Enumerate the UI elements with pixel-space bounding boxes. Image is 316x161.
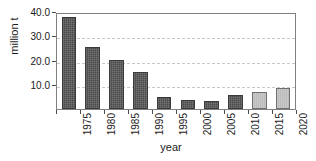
x-axis-title: year (56, 141, 286, 153)
bar (62, 17, 77, 109)
x-tick-label: 1995 (178, 113, 189, 141)
bar (109, 60, 124, 109)
bar (276, 88, 291, 109)
bar-slot (200, 14, 224, 109)
x-tick-label: 1990 (154, 113, 165, 141)
bar-slot (271, 14, 295, 109)
x-tick-label: 2010 (250, 113, 261, 141)
bar-slot (81, 14, 105, 109)
bar (85, 47, 100, 109)
x-tick-label: 2015 (274, 113, 285, 141)
bar-series (57, 14, 295, 109)
plot-area (56, 13, 296, 110)
bar (204, 101, 219, 109)
bar (228, 95, 243, 109)
x-tick-label: 1975 (82, 113, 93, 141)
x-tick-mark (296, 110, 297, 114)
x-tick-label: 2020 (298, 113, 309, 141)
bar-slot (105, 14, 129, 109)
x-axis-tick-labels: 1975198019851990199520002005201020152020 (56, 113, 296, 141)
y-tick-label: 40.0 (31, 6, 50, 19)
x-tick-label: 1980 (106, 113, 117, 141)
x-tick-label: 2005 (226, 113, 237, 141)
x-tick-label: 1985 (130, 113, 141, 141)
bar-slot (128, 14, 152, 109)
bar (181, 100, 196, 109)
bar-slot (152, 14, 176, 109)
y-tick-label: 30.0 (31, 30, 50, 43)
bar-slot (247, 14, 271, 109)
bar-slot (224, 14, 248, 109)
bar-slot (57, 14, 81, 109)
bar-slot (176, 14, 200, 109)
y-tick-label: 10.0 (31, 79, 50, 92)
bar (133, 72, 148, 109)
bar (157, 97, 172, 109)
bar (252, 92, 267, 109)
x-tick-label: 2000 (202, 113, 213, 141)
y-tick-label: 20.0 (31, 55, 50, 68)
y-axis-ticks: 10.020.030.040.0 (0, 13, 56, 110)
bar-chart-figure: million t 10.020.030.040.0 1975198019851… (0, 0, 316, 161)
